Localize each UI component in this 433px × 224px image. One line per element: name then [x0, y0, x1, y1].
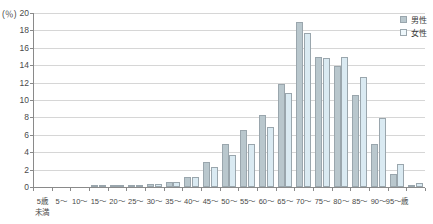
- x-axis-tickmark: [388, 188, 389, 191]
- plot-area: [33, 13, 425, 187]
- x-axis-tick-label: 10～: [72, 195, 87, 206]
- bar: [408, 185, 415, 187]
- x-axis-tick-label: 50～: [221, 195, 236, 206]
- bar-chart: (％) 02468101214161820 5歳未満5～10～15～20～25～…: [0, 0, 433, 224]
- bar: [416, 183, 423, 187]
- x-axis-tick-label: 25～: [128, 195, 143, 206]
- x-axis-tickmark: [145, 188, 146, 191]
- x-axis-tick-label: 20～: [109, 195, 124, 206]
- y-axis-tick-label: 20: [3, 8, 29, 18]
- x-axis-tick-label: 40～: [184, 195, 199, 206]
- y-axis-tick-label: 14: [3, 60, 29, 70]
- y-axis-tick-label: 10: [3, 95, 29, 105]
- y-axis-tick-label: 4: [3, 147, 29, 157]
- x-axis-tick-label: 65～: [277, 195, 292, 206]
- bar-group: [33, 13, 425, 187]
- x-axis-tickmark: [294, 188, 295, 191]
- x-axis-tick-label: 85～: [352, 195, 367, 206]
- x-axis-tickmark: [332, 188, 333, 191]
- x-axis-tick-label: 60～: [259, 195, 274, 206]
- y-axis-tick-label: 6: [3, 130, 29, 140]
- x-axis-tickmark: [89, 188, 90, 191]
- x-axis-tick-label: 35～: [165, 195, 180, 206]
- x-axis-tickmark: [52, 188, 53, 191]
- x-axis-tick-label: 75～: [315, 195, 330, 206]
- x-axis-tick-label: 30～: [147, 195, 162, 206]
- x-axis-tickmark: [126, 188, 127, 191]
- x-axis-tick-label: 95～歳: [386, 195, 408, 206]
- chart-legend: 男性 女性: [400, 14, 427, 40]
- x-axis-tick-label: 80～: [333, 195, 348, 206]
- y-axis-tick-label: 8: [3, 112, 29, 122]
- x-axis-tickmark: [201, 188, 202, 191]
- x-axis-tickmark: [406, 188, 407, 191]
- y-axis-tick-label: 12: [3, 78, 29, 88]
- x-axis-tick-label: 90～: [371, 195, 386, 206]
- female-swatch-icon: [400, 29, 407, 36]
- x-axis-tickmark: [350, 188, 351, 191]
- x-axis-tickmark: [257, 188, 258, 191]
- x-axis-tickmark: [108, 188, 109, 191]
- x-axis-tick-label: 5歳: [37, 195, 48, 206]
- x-axis-tickmark: [182, 188, 183, 191]
- x-axis-tickmark: [313, 188, 314, 191]
- legend-label-male: 男性: [411, 14, 427, 25]
- x-axis-tick-label: 45～: [203, 195, 218, 206]
- x-axis-tick-label: 5～: [55, 195, 66, 206]
- male-swatch-icon: [400, 16, 407, 23]
- x-axis-line: [33, 187, 425, 188]
- x-axis-tickmark: [220, 188, 221, 191]
- y-axis-tick-label: 0: [3, 182, 29, 192]
- x-axis-tickmark: [425, 188, 426, 191]
- legend-label-female: 女性: [411, 27, 427, 38]
- y-axis-tick-label: 16: [3, 43, 29, 53]
- x-axis-tickmark: [369, 188, 370, 191]
- y-axis-tick-label: 18: [3, 25, 29, 35]
- x-axis-tick-label: 15～: [91, 195, 106, 206]
- x-axis-tick-sublabel: 未満: [35, 206, 49, 217]
- y-axis-tick-label: 2: [3, 165, 29, 175]
- legend-item-female: 女性: [400, 27, 427, 38]
- legend-item-male: 男性: [400, 14, 427, 25]
- x-axis-tickmark: [164, 188, 165, 191]
- x-axis-tickmark: [70, 188, 71, 191]
- x-axis-tickmark: [238, 188, 239, 191]
- x-axis-tickmark: [276, 188, 277, 191]
- x-axis-tickmark: [33, 188, 34, 191]
- x-axis-tick-label: 55～: [240, 195, 255, 206]
- x-axis-tick-label: 70～: [296, 195, 311, 206]
